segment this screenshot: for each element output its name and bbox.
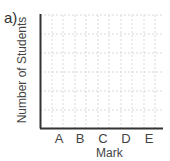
grid-lines xyxy=(40,15,163,128)
x-tick-c: C xyxy=(96,131,110,146)
x-axis-label: Mark xyxy=(96,146,123,160)
x-tick-a: A xyxy=(52,131,66,146)
x-tick-b: B xyxy=(73,131,87,146)
x-tick-d: D xyxy=(119,131,133,146)
x-tick-e: E xyxy=(142,131,156,146)
